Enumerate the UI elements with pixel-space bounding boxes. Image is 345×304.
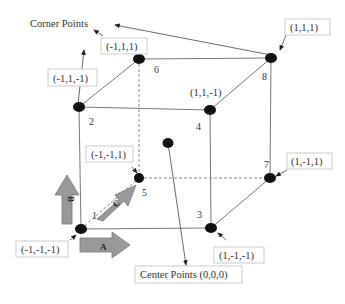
coord-label-6: (-1,1,1): [106, 41, 138, 53]
coord-label-3: (1,-1,-1): [219, 250, 254, 262]
corner-points-title: Corner Points: [30, 18, 88, 29]
coord-label-1: (-1,-1,-1): [21, 244, 60, 256]
coord-label-7: (1,-1,1): [291, 156, 323, 168]
cube-edges: [79, 58, 271, 229]
corner-num-4: 4: [196, 121, 201, 132]
corner-dot-4: [204, 105, 216, 115]
factorial-cube-diagram: A B C 6 8 2 4 5 1 3 7 Corner Points (-1,…: [0, 0, 345, 304]
corner-num-7: 7: [264, 159, 269, 170]
axis-label-b: B: [66, 196, 76, 202]
cube-hidden-edges: [81, 59, 270, 229]
corner-dot-2: [73, 102, 85, 112]
corner-num-6: 6: [154, 64, 159, 75]
corner-dot-3: [205, 223, 217, 233]
corner-dot-6: [133, 54, 145, 64]
corner-num-5: 5: [142, 187, 147, 198]
corner-num-1: 1: [92, 210, 97, 221]
corner-dots: [73, 53, 277, 234]
axis-label-a: A: [100, 242, 107, 252]
center-dot: [163, 138, 174, 148]
corner-dot-5: [134, 173, 144, 183]
center-points-label: Center Points (0,0,0): [140, 269, 228, 281]
corner-num-3: 3: [197, 209, 202, 220]
corner-num-2: 2: [89, 116, 94, 127]
corner-dot-1: [75, 224, 87, 234]
coord-label-4: (1,1,-1): [190, 87, 222, 99]
corner-dot-8: [265, 53, 277, 63]
coord-label-5: (-1,-1,1): [91, 149, 126, 161]
corner-dot-7: [264, 173, 276, 183]
coord-label-2: (-1,1,-1): [53, 73, 88, 85]
corner-num-8: 8: [262, 71, 267, 82]
coord-label-8: (1,1,1): [290, 22, 318, 34]
